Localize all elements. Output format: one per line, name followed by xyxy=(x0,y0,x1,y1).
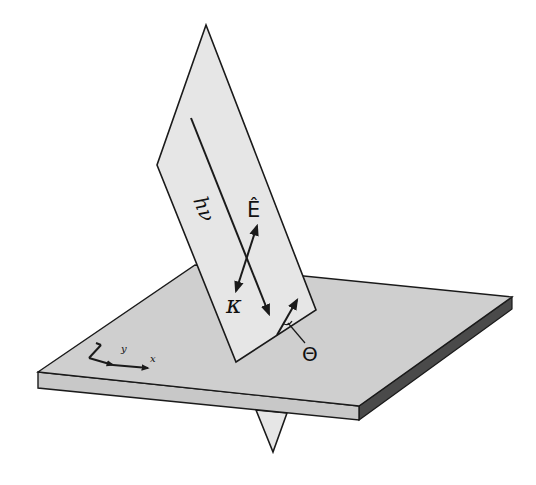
polarization-label: Ê xyxy=(247,197,260,222)
diagram-canvas: hν Ê κ Θ y x xyxy=(0,0,536,485)
wavevector-label: κ xyxy=(225,291,242,319)
angle-label: Θ xyxy=(302,342,318,366)
axis-y-label: y xyxy=(120,343,127,354)
plane-lower-tip xyxy=(256,410,287,452)
axis-x-label: x xyxy=(150,353,156,364)
